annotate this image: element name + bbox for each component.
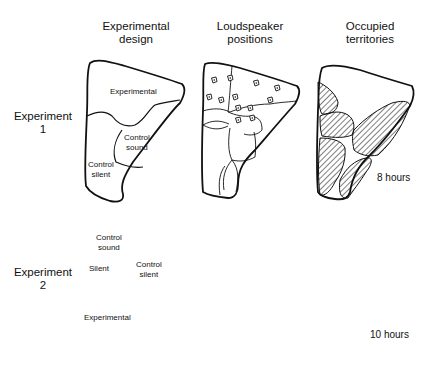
exp1-design-map: [85, 61, 184, 202]
loudspeaker-icon: [268, 97, 274, 103]
loudspeaker-icon: [248, 105, 254, 111]
exp1-label-control-sound: Control sound: [124, 133, 150, 152]
loudspeaker-icon: [250, 115, 256, 121]
exp2-label-silent: Silent: [89, 264, 109, 274]
loudspeaker-icon: [219, 97, 225, 103]
exp1-label-experimental: Experimental: [110, 87, 157, 97]
label-line: silent: [88, 170, 114, 180]
label-line: sound: [124, 143, 150, 153]
loudspeaker-icon: [233, 94, 239, 100]
exp2-label-experimental: Experimental: [84, 313, 131, 323]
loudspeaker-icon: [236, 105, 242, 111]
loudspeaker-icon: [254, 80, 260, 86]
loudspeaker-icon: [236, 117, 242, 123]
loudspeaker-icon: [275, 85, 281, 91]
label-line: Control: [88, 160, 114, 170]
label-line: sound: [96, 243, 122, 253]
exp2-label-control-sound: Control sound: [96, 233, 122, 252]
diagram-canvas: [0, 0, 434, 377]
label-line: Control: [124, 133, 150, 143]
label-line: Control: [96, 233, 122, 243]
label-line: Control: [136, 260, 162, 270]
loudspeaker-icon: [207, 94, 213, 100]
exp1-duration: 8 hours: [377, 172, 410, 183]
exp2-label-control-silent: Control silent: [136, 260, 162, 279]
exp1-label-control-silent: Control silent: [88, 160, 114, 179]
loudspeaker-icon: [228, 75, 234, 81]
exp2-duration: 10 hours: [370, 329, 409, 340]
label-line: silent: [136, 270, 162, 280]
exp1-loudspeaker-map: [202, 63, 299, 198]
loudspeaker-icon: [212, 77, 218, 83]
